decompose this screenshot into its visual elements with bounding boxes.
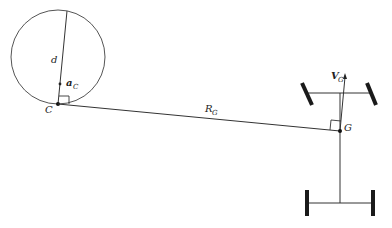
radius-line: [58, 104, 340, 131]
accel-dot: [59, 83, 62, 86]
diameter-line: [58, 11, 67, 104]
velocity-arrowhead-icon: [343, 73, 347, 79]
label-g: G: [344, 122, 352, 133]
label-c: C: [45, 104, 53, 115]
turning-circle: [11, 10, 105, 104]
label-r-sub: G: [212, 109, 218, 117]
diagram-canvas: d a C C R G V G G: [0, 0, 392, 228]
right-angle-marker-g: [330, 120, 341, 130]
label-accel-sub: C: [73, 83, 79, 91]
point-g: [338, 129, 342, 133]
front-right-wheel: [367, 83, 376, 105]
label-accel: a: [66, 77, 72, 88]
front-left-wheel: [302, 83, 312, 105]
label-d: d: [51, 54, 57, 65]
label-v-sub: G: [338, 76, 344, 84]
